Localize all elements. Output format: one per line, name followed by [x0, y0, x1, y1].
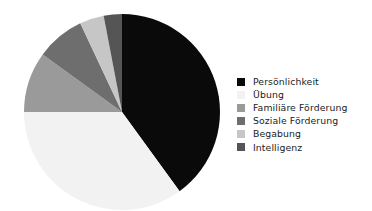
legend-swatch-soziale-foerderung: [237, 117, 245, 125]
pie-plot-area: [0, 0, 232, 211]
legend-label-intelligenz: Intelligenz: [253, 142, 302, 153]
legend-swatch-persoenlichkeit: [237, 78, 245, 86]
pie-svg: [0, 0, 232, 211]
legend-swatch-uebung: [237, 91, 245, 99]
legend-item-soziale-foerderung[interactable]: Soziale Förderung: [237, 114, 372, 127]
legend-swatch-familiaere-foerderung: [237, 104, 245, 112]
legend-label-familiaere-foerderung: Familiäre Förderung: [253, 102, 347, 113]
legend-label-persoenlichkeit: Persönlichkeit: [253, 76, 319, 87]
legend-item-uebung[interactable]: Übung: [237, 88, 372, 101]
legend-item-begabung[interactable]: Begabung: [237, 127, 372, 140]
legend-swatch-begabung: [237, 130, 245, 138]
pie-chart-figure: Persönlichkeit Übung Familiäre Förderung…: [0, 0, 372, 211]
legend-item-intelligenz[interactable]: Intelligenz: [237, 140, 372, 153]
pie-slice-group: [24, 14, 220, 210]
legend-label-begabung: Begabung: [253, 128, 301, 139]
legend-label-soziale-foerderung: Soziale Förderung: [253, 115, 338, 126]
chart-legend: Persönlichkeit Übung Familiäre Förderung…: [237, 75, 372, 154]
legend-swatch-intelligenz: [237, 143, 245, 151]
legend-label-uebung: Übung: [253, 89, 284, 100]
legend-item-persoenlichkeit[interactable]: Persönlichkeit: [237, 75, 372, 88]
legend-item-familiaere-foerderung[interactable]: Familiäre Förderung: [237, 101, 372, 114]
